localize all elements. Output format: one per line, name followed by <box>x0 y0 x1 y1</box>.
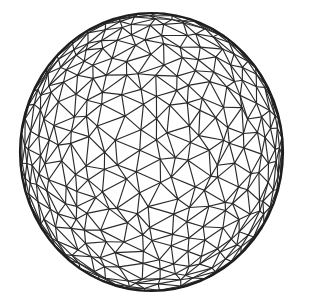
mesh-edge <box>86 137 89 166</box>
mesh-edge <box>140 150 160 159</box>
mesh-edge <box>156 75 157 96</box>
mesh-front-edges <box>20 13 283 291</box>
mesh-edge <box>82 180 84 203</box>
mesh-edge <box>94 267 104 272</box>
mesh-edge <box>140 130 141 150</box>
mesh-edge <box>123 185 136 186</box>
mesh-edge <box>210 105 233 106</box>
mesh-edge <box>31 131 39 136</box>
mesh-edge <box>170 105 190 126</box>
mesh-edge <box>78 75 93 78</box>
mesh-edge <box>214 57 216 72</box>
mesh-edge <box>275 123 276 140</box>
mesh-edge <box>58 204 65 214</box>
mesh-edge <box>86 166 104 169</box>
mesh-edge <box>187 63 189 85</box>
mesh-edge <box>193 278 205 279</box>
mesh-edge <box>200 98 202 110</box>
mesh-edge <box>112 58 126 61</box>
mesh-edge <box>122 95 144 105</box>
mesh-edge <box>225 202 232 203</box>
mesh-edge <box>177 76 188 85</box>
mesh-edge <box>143 263 160 269</box>
mesh-edge <box>127 94 152 95</box>
mesh-edge <box>120 256 137 257</box>
mesh-edge <box>202 82 210 99</box>
mesh-edge <box>126 62 138 74</box>
mesh-edge <box>156 133 167 140</box>
mesh-edge <box>70 165 85 166</box>
mesh-edge <box>124 231 139 242</box>
mesh-edge <box>207 222 215 234</box>
mesh-edge <box>65 208 75 216</box>
mesh-edge <box>227 87 242 108</box>
mesh-edge <box>259 173 260 201</box>
mesh-edge <box>101 209 110 230</box>
mesh-edge <box>127 74 138 75</box>
mesh-edge <box>190 206 209 207</box>
mesh-edge <box>56 227 72 228</box>
mesh-edge <box>57 157 58 170</box>
mesh-edge <box>64 82 77 94</box>
mesh-edge <box>157 119 167 133</box>
mesh-edge <box>76 75 78 94</box>
mesh-edge <box>102 95 122 104</box>
mesh-edge <box>54 126 71 132</box>
mesh-edge <box>78 243 86 250</box>
mesh-edge <box>224 140 230 143</box>
mesh-edge <box>234 80 242 81</box>
mesh-edge <box>231 256 233 257</box>
mesh-edge <box>111 98 114 126</box>
mesh-edge <box>273 123 275 139</box>
mesh-edge <box>136 257 137 268</box>
mesh-edge <box>86 166 88 180</box>
mesh-edge <box>179 147 200 149</box>
mesh-edge <box>160 274 175 279</box>
mesh-edge <box>159 260 160 269</box>
mesh-edge <box>100 65 114 67</box>
mesh-edge <box>184 199 201 204</box>
mesh-edge <box>145 35 162 39</box>
mesh-edge <box>247 190 250 214</box>
mesh-edge <box>122 95 125 116</box>
mesh-edge <box>263 201 270 207</box>
mesh-edge <box>186 275 193 278</box>
mesh-edge <box>169 110 172 134</box>
mesh-edge <box>117 150 139 165</box>
mesh-edge <box>216 187 217 205</box>
mesh-edge <box>122 27 131 34</box>
mesh-edge <box>39 136 41 156</box>
mesh-edge <box>87 100 102 104</box>
mesh-edge <box>259 173 268 183</box>
mesh-edge <box>102 92 103 104</box>
mesh-edge <box>182 174 198 180</box>
mesh-edge <box>243 119 247 134</box>
mesh-edge <box>151 163 173 173</box>
mesh-edge <box>257 132 261 154</box>
mesh-edge <box>157 212 159 229</box>
mesh-edge <box>39 136 50 140</box>
mesh-edge <box>189 227 203 238</box>
mesh-edge <box>115 251 143 252</box>
mesh-edge <box>160 279 181 280</box>
mesh-edge <box>96 192 103 198</box>
mesh-edge <box>187 98 202 103</box>
mesh-edge <box>105 152 118 165</box>
mesh-edge <box>140 140 157 150</box>
mesh-edge <box>101 41 102 49</box>
mesh-edge <box>72 241 82 245</box>
mesh-edge <box>98 95 110 98</box>
mesh-edge <box>100 265 101 275</box>
mesh-edge <box>182 179 185 203</box>
mesh-edge <box>164 58 182 65</box>
mesh-edge <box>150 134 169 137</box>
mesh-edge <box>188 238 189 251</box>
mesh-edge <box>76 206 77 219</box>
mesh-edge <box>157 105 170 118</box>
mesh-edge <box>84 61 93 65</box>
mesh-edge <box>150 214 174 227</box>
mesh-edge <box>207 234 221 242</box>
mesh-edge <box>224 156 247 158</box>
mesh-edge <box>194 124 209 137</box>
mesh-edge <box>131 25 150 26</box>
